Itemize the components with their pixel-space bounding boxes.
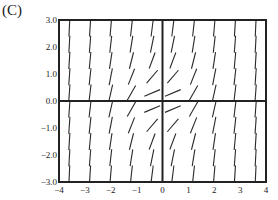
slope-segment [149, 134, 155, 150]
slope-segment [144, 106, 160, 113]
slope-segment [151, 20, 153, 37]
slope-segment [131, 20, 133, 37]
slope-segment [214, 20, 215, 37]
slope-segment [69, 52, 70, 69]
y-tick-label: 0.0 [46, 96, 58, 106]
slope-segment [234, 52, 236, 69]
slope-segment [189, 102, 197, 117]
slope-segment [167, 119, 178, 132]
slope-segment [234, 117, 236, 134]
slope-segment [110, 149, 112, 166]
slope-segment [69, 165, 70, 182]
slope-segment [193, 165, 195, 182]
slope-segment [213, 36, 215, 53]
slope-segment [110, 20, 111, 37]
slope-segment [193, 20, 195, 37]
slope-segment [147, 70, 158, 83]
slope-segment [128, 69, 134, 85]
slope-segment [127, 102, 135, 117]
slope-segment [214, 165, 215, 182]
slope-segment [255, 84, 256, 101]
slope-segment [191, 52, 195, 68]
slope-segment [109, 85, 113, 102]
slope-segment [110, 165, 111, 182]
slope-segment [69, 20, 70, 37]
slope-segment [170, 53, 176, 69]
slope-segment [128, 117, 134, 133]
slope-segment [150, 149, 153, 166]
slope-segment [213, 52, 216, 69]
slope-segment [129, 133, 133, 149]
slope-segment [69, 133, 70, 150]
slope-segment [89, 68, 91, 85]
x-tick-label: 4 [264, 185, 269, 195]
slope-segment [213, 117, 216, 134]
slope-segment [131, 165, 133, 182]
y-tick-label: −2.0 [41, 150, 58, 160]
y-tick-labels: 3.02.01.00.0−1.0−2.0−3.0 [41, 15, 58, 187]
slope-segment [171, 36, 174, 53]
x-tick-label: 0 [160, 185, 165, 195]
y-tick-label: 3.0 [46, 15, 58, 25]
slope-segment [234, 149, 235, 166]
slope-segment [69, 68, 70, 85]
y-tick-label: 1.0 [46, 69, 58, 79]
slope-segment [109, 101, 113, 118]
slope-segment [151, 165, 153, 182]
x-tick-label: −1 [132, 185, 142, 195]
slope-segment [255, 133, 256, 150]
slope-segment [110, 36, 112, 53]
slope-segment [89, 36, 90, 53]
x-tick-label: 1 [186, 185, 191, 195]
slope-segment [69, 84, 70, 101]
slope-segment [213, 68, 216, 85]
slope-segment [213, 149, 215, 166]
slope-segment [190, 117, 196, 133]
slope-segment [89, 52, 91, 69]
slope-segment [69, 117, 70, 134]
slope-segment [109, 117, 112, 134]
slope-segment [127, 86, 135, 101]
y-tick-label: −1.0 [41, 123, 58, 133]
slope-segment [189, 86, 197, 101]
x-tick-label: −2 [106, 185, 116, 195]
slope-segment [69, 36, 70, 53]
slope-segment [109, 133, 112, 150]
slope-segment [190, 69, 196, 85]
slope-segment [212, 85, 216, 102]
slope-segment [90, 20, 91, 37]
slope-segment [150, 36, 153, 53]
slope-segment [147, 119, 158, 132]
slope-segment [171, 149, 174, 166]
slope-segment [130, 36, 133, 53]
slope-segment [255, 52, 256, 69]
slope-segment [234, 84, 236, 101]
slope-segment [149, 53, 155, 69]
slope-segment [89, 84, 91, 101]
y-tick-label: 2.0 [46, 42, 58, 52]
slope-segment [234, 165, 235, 182]
slope-segment [255, 20, 256, 37]
slope-segment [130, 149, 133, 166]
x-tick-label: 3 [238, 185, 243, 195]
slope-segment [69, 101, 70, 118]
slope-segment [255, 36, 256, 53]
slope-segment [234, 133, 236, 150]
slope-segment [172, 20, 174, 37]
slope-segment [167, 70, 178, 83]
slope-segment [69, 149, 70, 166]
slope-segment [89, 149, 90, 166]
slope-segment [255, 149, 256, 166]
slope-segment [89, 133, 91, 150]
slope-segment [109, 52, 112, 69]
slope-segment [165, 106, 181, 113]
slope-field-plot: −4−3−2−101234 3.02.01.00.0−1.0−2.0−3.0 [0, 0, 278, 200]
slope-segment [255, 165, 256, 182]
slope-segment [192, 36, 195, 53]
slope-segment [234, 20, 235, 37]
slope-segment [234, 36, 235, 53]
slope-segment [165, 90, 181, 97]
x-tick-label: −3 [80, 185, 90, 195]
slope-segment [144, 90, 160, 97]
slope-segment [90, 165, 91, 182]
